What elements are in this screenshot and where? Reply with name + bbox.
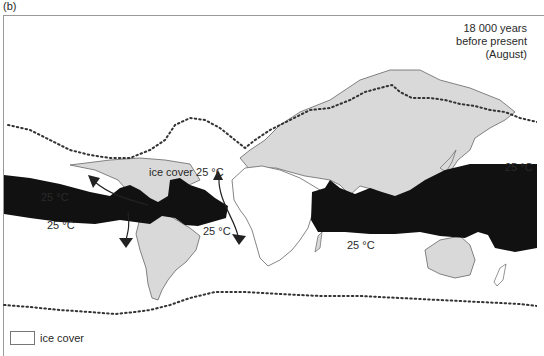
madagascar — [315, 232, 322, 252]
arrow-head-pacific-south — [119, 238, 133, 248]
legend: ice cover — [10, 331, 84, 345]
australia — [425, 236, 475, 278]
ice-cover-25c-label: ice cover 25 °C — [149, 166, 224, 178]
figure-title: 18 000 years before present (August) — [456, 22, 527, 61]
indian-ocean-temp-label: 25 °C — [347, 239, 375, 251]
africa — [232, 166, 320, 266]
arrow-head-atlantic-south — [232, 234, 246, 245]
pacific-south-temp-label: 25 °C — [47, 219, 75, 231]
southern-ice-edge — [4, 292, 537, 314]
arrow-head-pacific-north — [88, 175, 100, 188]
new-zealand — [494, 264, 506, 286]
legend-label: ice cover — [40, 332, 84, 344]
ice-cover-swatch — [10, 331, 35, 345]
atlantic-temp-label: 25 °C — [203, 225, 231, 237]
pacific-north-temp-label: 25 °C — [41, 191, 69, 203]
west-pacific-temp-label: 25 °C — [505, 161, 533, 173]
